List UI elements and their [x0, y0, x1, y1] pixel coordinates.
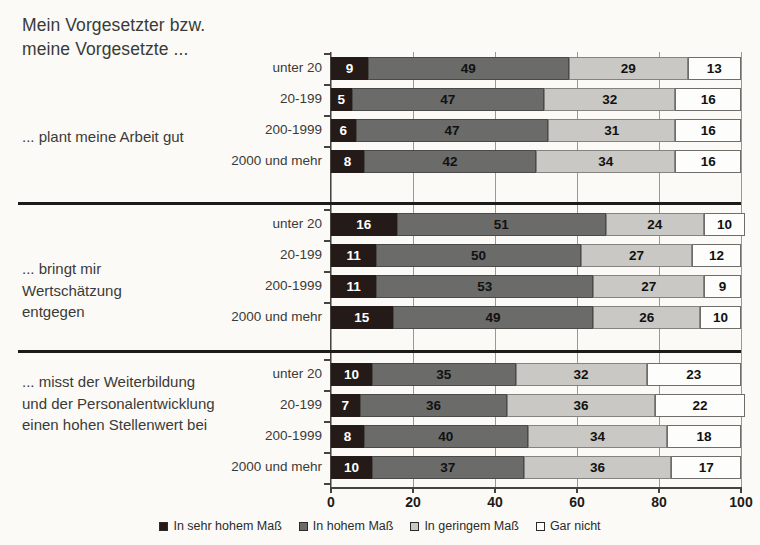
bar-segment-0[interactable]: 8 [331, 425, 364, 448]
bar-segment-0[interactable]: 8 [331, 150, 364, 173]
stacked-bar[interactable]: 10373617 [331, 456, 741, 479]
x-axis-tick-80 [658, 487, 660, 493]
bar-segment-3[interactable]: 22 [655, 394, 745, 417]
group-separator-1 [18, 202, 741, 205]
bar-segment-3[interactable]: 12 [692, 244, 741, 267]
bar-segment-0[interactable]: 6 [331, 119, 356, 142]
bar-segment-3[interactable]: 9 [704, 275, 741, 298]
stacked-bar[interactable]: 7363622 [331, 394, 741, 417]
legend-swatch-icon [159, 522, 168, 531]
stacked-bar[interactable]: 16512410 [331, 213, 741, 236]
gridline-60 [577, 52, 578, 487]
category-label: 2000 und mehr [72, 459, 322, 475]
bar-segment-1[interactable]: 49 [393, 306, 594, 329]
bar-segment-1[interactable]: 51 [397, 213, 606, 236]
y-axis-tick [324, 421, 330, 423]
y-axis-tick [324, 209, 330, 211]
bar-segment-2[interactable]: 36 [507, 394, 655, 417]
x-axis-line [331, 487, 742, 489]
bar-segment-0[interactable]: 10 [331, 363, 372, 386]
gridline-80 [659, 52, 660, 487]
bar-segment-3[interactable]: 23 [647, 363, 741, 386]
x-axis-tick-0 [330, 487, 332, 493]
bar-segment-0[interactable]: 11 [331, 244, 376, 267]
legend-item-0[interactable]: In sehr hohem Maß [159, 519, 281, 533]
stacked-bar[interactable]: 10353223 [331, 363, 741, 386]
bar-segment-3[interactable]: 16 [675, 119, 741, 142]
bar-segment-1[interactable]: 36 [360, 394, 508, 417]
bar-segment-3[interactable]: 10 [704, 213, 745, 236]
gridline-40 [495, 52, 496, 487]
bar-segment-3[interactable]: 18 [667, 425, 741, 448]
bar-segment-3[interactable]: 13 [688, 57, 741, 80]
legend-item-2[interactable]: In geringem Maß [410, 519, 518, 533]
stacked-bar[interactable]: 1153279 [331, 275, 741, 298]
bar-segment-0[interactable]: 16 [331, 213, 397, 236]
x-axis-label-0: 0 [311, 494, 351, 510]
stacked-bar[interactable]: 8423416 [331, 150, 741, 173]
legend-swatch-icon [536, 522, 545, 531]
bar-segment-0[interactable]: 11 [331, 275, 376, 298]
bar-segment-1[interactable]: 47 [352, 88, 545, 111]
legend-label: Gar nicht [550, 519, 601, 533]
bar-segment-0[interactable]: 7 [331, 394, 360, 417]
y-axis-tick [324, 483, 330, 485]
stacked-bar[interactable]: 6473116 [331, 119, 741, 142]
bar-segment-0[interactable]: 9 [331, 57, 368, 80]
category-label: 20-199 [72, 91, 322, 107]
gridline-0 [331, 52, 332, 487]
bar-segment-2[interactable]: 29 [569, 57, 688, 80]
bar-segment-1[interactable]: 47 [356, 119, 549, 142]
y-axis-tick [324, 53, 330, 55]
gridline-100 [741, 52, 742, 487]
bar-segment-2[interactable]: 27 [593, 275, 704, 298]
gridline-20 [413, 52, 414, 487]
bar-segment-2[interactable]: 31 [548, 119, 675, 142]
x-axis-label-20: 20 [393, 494, 433, 510]
chart-root: Mein Vorgesetzter bzw. meine Vorgesetzte… [0, 0, 760, 545]
bar-segment-2[interactable]: 34 [528, 425, 667, 448]
stacked-bar[interactable]: 5473216 [331, 88, 741, 111]
stacked-bar[interactable]: 15492610 [331, 306, 741, 329]
category-label: unter 20 [72, 366, 322, 382]
bar-segment-1[interactable]: 37 [372, 456, 524, 479]
bar-segment-2[interactable]: 32 [544, 88, 675, 111]
stacked-bar[interactable]: 11502712 [331, 244, 741, 267]
legend-swatch-icon [299, 522, 308, 531]
category-label: 20-199 [72, 397, 322, 413]
bar-segment-3[interactable]: 16 [675, 150, 741, 173]
bar-segment-0[interactable]: 10 [331, 456, 372, 479]
legend-swatch-icon [410, 522, 419, 531]
stacked-bar[interactable]: 8403418 [331, 425, 741, 448]
x-axis-tick-100 [740, 487, 742, 493]
y-axis-tick [324, 146, 330, 148]
bar-segment-1[interactable]: 53 [376, 275, 593, 298]
bar-segment-2[interactable]: 36 [524, 456, 672, 479]
bar-segment-1[interactable]: 50 [376, 244, 581, 267]
y-axis-tick [324, 359, 330, 361]
legend-item-3[interactable]: Gar nicht [536, 519, 601, 533]
category-label: 20-199 [72, 247, 322, 263]
y-axis-tick [324, 452, 330, 454]
bar-segment-1[interactable]: 49 [368, 57, 569, 80]
bar-segment-2[interactable]: 27 [581, 244, 692, 267]
bar-segment-2[interactable]: 34 [536, 150, 675, 173]
bar-segment-3[interactable]: 17 [671, 456, 741, 479]
bar-segment-2[interactable]: 24 [606, 213, 704, 236]
legend-item-1[interactable]: In hohem Maß [299, 519, 394, 533]
y-axis-tick [324, 271, 330, 273]
bar-segment-1[interactable]: 40 [364, 425, 528, 448]
bar-segment-2[interactable]: 32 [516, 363, 647, 386]
category-label: unter 20 [72, 60, 322, 76]
bar-segment-0[interactable]: 15 [331, 306, 393, 329]
bar-segment-1[interactable]: 42 [364, 150, 536, 173]
category-label: 200-1999 [72, 278, 322, 294]
bar-segment-1[interactable]: 35 [372, 363, 516, 386]
stacked-bar[interactable]: 9492913 [331, 57, 741, 80]
y-axis-tick [324, 115, 330, 117]
bar-segment-2[interactable]: 26 [593, 306, 700, 329]
bar-segment-3[interactable]: 16 [675, 88, 741, 111]
legend-label: In geringem Maß [424, 519, 518, 533]
bar-segment-3[interactable]: 10 [700, 306, 741, 329]
bar-segment-0[interactable]: 5 [331, 88, 352, 111]
